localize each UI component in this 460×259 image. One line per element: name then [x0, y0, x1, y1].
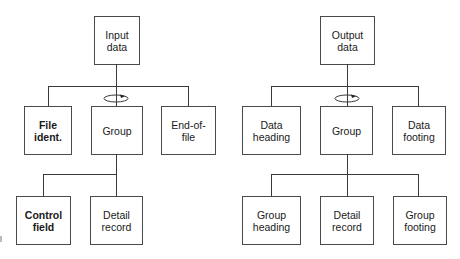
output-group-box: Group	[320, 106, 373, 155]
control-field-label: Control field	[25, 209, 62, 233]
connector	[188, 86, 189, 106]
data-heading-label: Data heading	[253, 119, 290, 143]
iteration-loop-icon	[103, 94, 129, 103]
connector	[271, 174, 272, 196]
output-group-label: Group	[332, 125, 361, 137]
output-detail-record-label: Detail record	[332, 209, 362, 233]
connector	[418, 174, 419, 196]
output-data-label: Output data	[332, 29, 364, 53]
connector	[43, 174, 44, 196]
input-data-label: Input data	[105, 29, 128, 53]
end-of-file-label: End-of- file	[171, 119, 205, 143]
end-of-file-box: End-of- file	[161, 106, 216, 155]
input-detail-record-box: Detail record	[90, 196, 143, 245]
group-footing-box: Group footing	[393, 196, 447, 245]
connector	[347, 154, 348, 196]
data-structure-diagram: Input data File ident. Group End-of- fil…	[0, 0, 460, 259]
file-ident-box: File ident.	[24, 106, 72, 155]
connector	[418, 86, 419, 106]
output-data-box: Output data	[320, 16, 375, 65]
data-footing-label: Data footing	[403, 119, 435, 143]
connector	[48, 86, 189, 87]
connector	[48, 86, 49, 106]
connector	[116, 154, 117, 196]
iteration-loop-icon	[334, 94, 360, 103]
input-group-box: Group	[91, 106, 143, 155]
control-field-box: Control field	[16, 196, 71, 245]
data-footing-box: Data footing	[392, 106, 446, 155]
group-heading-box: Group heading	[242, 196, 301, 245]
group-footing-label: Group footing	[404, 209, 436, 233]
input-detail-record-label: Detail record	[102, 209, 132, 233]
input-data-box: Input data	[94, 16, 140, 65]
edge-mark	[0, 236, 2, 242]
connector	[271, 174, 419, 175]
output-detail-record-box: Detail record	[320, 196, 374, 245]
file-ident-label: File ident.	[34, 119, 62, 143]
data-heading-box: Data heading	[242, 106, 301, 155]
group-heading-label: Group heading	[253, 209, 290, 233]
connector	[271, 86, 419, 87]
input-group-label: Group	[102, 125, 131, 137]
connector	[43, 174, 117, 175]
connector	[271, 86, 272, 106]
